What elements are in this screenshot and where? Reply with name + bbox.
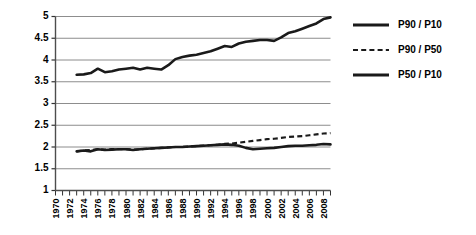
x-tick-label: 1976 xyxy=(93,199,103,219)
legend-item[interactable]: P90 / P50 xyxy=(352,37,472,62)
y-tick-label: 5 xyxy=(43,10,49,21)
legend-item-label: P90 / P50 xyxy=(398,44,442,55)
x-tick-label: 1998 xyxy=(248,199,258,219)
series-line xyxy=(77,17,331,74)
legend-item-label: P90 / P10 xyxy=(398,19,442,30)
x-tick-label: 1972 xyxy=(65,199,75,219)
x-tick-label: 1994 xyxy=(220,199,230,219)
data-series xyxy=(77,17,331,151)
y-tick-label: 2 xyxy=(43,141,49,152)
x-tick-label: 1980 xyxy=(122,199,132,219)
y-tick-label: 1 xyxy=(43,184,49,195)
legend-item[interactable]: P50 / P10 xyxy=(352,62,472,87)
x-tick-label: 2002 xyxy=(277,199,287,219)
plot-area: 11.522.533.544.55 1970197219741976197819… xyxy=(0,0,340,235)
x-tick-label: 2006 xyxy=(305,199,315,219)
x-tick-label: 1996 xyxy=(234,199,244,219)
x-tick-label: 1986 xyxy=(164,199,174,219)
series-line xyxy=(77,144,331,151)
x-tick-label: 2000 xyxy=(263,199,273,219)
y-tick-label: 4.5 xyxy=(35,32,49,43)
x-tick-label: 1982 xyxy=(136,199,146,219)
line-chart-svg: 11.522.533.544.55 1970197219741976197819… xyxy=(0,0,340,235)
legend-swatch-solid xyxy=(352,69,390,81)
x-tick-label: 2008 xyxy=(319,199,329,219)
y-tick-label: 4 xyxy=(43,54,49,65)
chart-legend: P90 / P10P90 / P50P50 / P10 xyxy=(352,12,472,87)
x-axis-ticks xyxy=(56,191,331,196)
legend-item-label: P50 / P10 xyxy=(398,69,442,80)
y-tick-label: 1.5 xyxy=(35,162,49,173)
y-tick-label: 3 xyxy=(43,97,49,108)
x-tick-label: 2004 xyxy=(291,199,301,219)
y-tick-label: 2.5 xyxy=(35,119,49,130)
x-tick-label: 1984 xyxy=(150,199,160,219)
y-tick-label: 3.5 xyxy=(35,75,49,86)
x-tick-label: 1978 xyxy=(107,199,117,219)
legend-swatch-solid xyxy=(352,19,390,31)
chart-root: 11.522.533.544.55 1970197219741976197819… xyxy=(0,0,476,235)
legend-item[interactable]: P90 / P10 xyxy=(352,12,472,37)
x-tick-label: 1990 xyxy=(192,199,202,219)
legend-swatch-dashed xyxy=(352,44,390,56)
x-tick-label: 1974 xyxy=(79,199,89,219)
x-tick-label: 1970 xyxy=(51,199,61,219)
x-axis-tick-labels: 1970197219741976197819801982198419861988… xyxy=(51,199,329,219)
x-tick-label: 1992 xyxy=(206,199,216,219)
x-tick-label: 1988 xyxy=(178,199,188,219)
y-axis-tick-labels: 11.522.533.544.55 xyxy=(35,10,49,195)
